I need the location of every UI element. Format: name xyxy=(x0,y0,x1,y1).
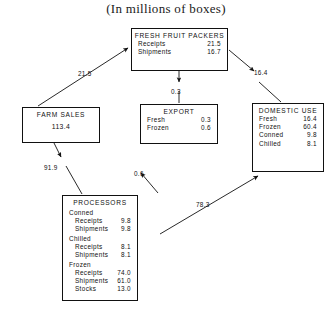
row-value: 0.6 xyxy=(201,124,211,132)
group-label: Chilled xyxy=(69,233,131,243)
row-key: Receipts xyxy=(69,243,109,251)
edge-farm-sales-to-packers xyxy=(38,48,128,106)
node-title: FARM SALES xyxy=(23,108,99,119)
node-farm-sales[interactable]: FARM SALES 113.4 xyxy=(22,107,100,143)
table-row: Fresh 16.4 xyxy=(259,115,317,123)
table-row: Stocks 13.0 xyxy=(69,285,131,293)
edge-packers-to-domestic-use xyxy=(229,50,254,71)
row-key: Receipts xyxy=(69,217,109,225)
node-domestic-use[interactable]: DOMESTIC USE Fresh 16.4 Frozen 60.4 Conn… xyxy=(252,103,324,172)
row-key: Shipments xyxy=(69,251,114,259)
table-row: Frozen 0.6 xyxy=(147,124,211,132)
row-value: 16.4 xyxy=(303,115,317,123)
table-row: Receipts 21.5 xyxy=(138,40,221,48)
row-value: 8.1 xyxy=(121,251,131,259)
row-value: 13.0 xyxy=(117,285,131,293)
edge-packers-to-domestic-use-tail xyxy=(259,82,281,102)
edge-farm-sales-to-processors-tail xyxy=(66,166,82,194)
row-value: 8.1 xyxy=(121,243,131,251)
table-row: Shipments 8.1 xyxy=(69,251,131,259)
node-value: 113.4 xyxy=(23,119,99,131)
edge-label-processors-to-export: 0.6 xyxy=(134,170,144,177)
group-label: Frozen xyxy=(69,259,131,269)
edge-farm-sales-to-processors xyxy=(54,143,61,157)
edge-label-processors-to-domestic-use: 78.3 xyxy=(196,201,210,208)
row-key: Stocks xyxy=(69,285,102,293)
node-processors[interactable]: PROCESSORS Conned Receipts 9.8 Shipments… xyxy=(62,195,138,301)
edge-label-farm-sales-to-packers: 21.5 xyxy=(78,70,92,77)
row-key: Frozen xyxy=(259,123,287,131)
row-key: Receipts xyxy=(69,269,109,277)
edge-label-packers-to-domestic-use: 16.4 xyxy=(254,69,268,76)
table-row: Receipts 8.1 xyxy=(69,243,131,251)
table-row: Shipments 9.8 xyxy=(69,225,131,233)
row-key: Fresh xyxy=(147,116,171,124)
table-row: Chilled 8.1 xyxy=(259,140,317,148)
row-key: Receipts xyxy=(138,40,172,48)
edge-label-packers-to-export: 0.3 xyxy=(171,88,181,95)
row-value: 9.8 xyxy=(307,131,317,139)
row-value: 60.4 xyxy=(303,123,317,131)
table-row: Shipments 61.0 xyxy=(69,277,131,285)
table-row: Shipments 16.7 xyxy=(138,48,221,56)
flow-diagram: (In millions of boxes) FRESH FRUIT PACKE… xyxy=(0,0,332,311)
row-value: 74.0 xyxy=(117,269,131,277)
row-key: Shipments xyxy=(69,225,114,233)
row-key: Fresh xyxy=(259,115,283,123)
row-value: 21.5 xyxy=(207,40,221,48)
row-key: Chilled xyxy=(259,140,287,148)
row-key: Conned xyxy=(259,131,290,139)
row-value: 16.7 xyxy=(207,48,221,56)
group-label: Conned xyxy=(69,207,131,217)
node-export[interactable]: EXPORT Fresh 0.3 Frozen 0.6 xyxy=(140,104,218,144)
table-row: Fresh 0.3 xyxy=(147,116,211,124)
table-row: Receipts 74.0 xyxy=(69,269,131,277)
row-key: Shipments xyxy=(138,48,177,56)
table-row: Receipts 9.8 xyxy=(69,217,131,225)
row-value: 9.8 xyxy=(121,217,131,225)
row-value: 61.0 xyxy=(117,277,131,285)
node-title: PROCESSORS xyxy=(63,196,137,207)
edge-label-farm-sales-to-processors: 91.9 xyxy=(44,164,58,171)
node-title: FRESH FRUIT PACKERS xyxy=(132,29,227,40)
row-value: 0.3 xyxy=(201,116,211,124)
table-row: Conned 9.8 xyxy=(259,131,317,139)
row-value: 9.8 xyxy=(121,225,131,233)
node-title: DOMESTIC USE xyxy=(253,104,323,115)
row-key: Frozen xyxy=(147,124,175,132)
node-fresh-fruit-packers[interactable]: FRESH FRUIT PACKERS Receipts 21.5 Shipme… xyxy=(131,28,228,71)
table-row: Frozen 60.4 xyxy=(259,123,317,131)
row-key: Shipments xyxy=(69,277,114,285)
node-title: EXPORT xyxy=(141,105,217,116)
row-value: 8.1 xyxy=(307,140,317,148)
